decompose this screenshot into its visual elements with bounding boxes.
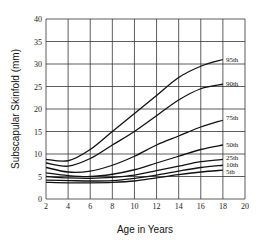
y-tick-label: 5 xyxy=(38,173,42,182)
x-tick-label: 2 xyxy=(44,202,48,211)
x-tick-label: 4 xyxy=(66,202,70,211)
x-tick-label: 18 xyxy=(219,202,227,211)
y-tick-label: 10 xyxy=(34,150,42,159)
y-axis-ticks: 0510152025303540 xyxy=(34,15,42,204)
y-tick-label: 35 xyxy=(34,38,42,47)
x-tick-label: 14 xyxy=(175,202,183,211)
y-tick-label: 20 xyxy=(34,105,42,114)
label-75th: 75th xyxy=(226,114,239,122)
percentile-labels: 95th90th75th50th25th10th5th xyxy=(226,56,239,177)
x-tick-label: 16 xyxy=(197,202,205,211)
y-tick-label: 15 xyxy=(34,128,42,137)
y-axis-title: Subscapular Skinfold (mm) xyxy=(10,49,21,169)
x-axis-title: Age in Years xyxy=(117,224,173,235)
x-tick-label: 10 xyxy=(130,202,138,211)
x-tick-label: 8 xyxy=(110,202,114,211)
y-tick-label: 0 xyxy=(38,195,42,204)
x-tick-label: 12 xyxy=(153,202,161,211)
label-90th: 90th xyxy=(226,80,239,88)
label-5th: 5th xyxy=(226,168,235,176)
label-95th: 95th xyxy=(226,56,239,64)
y-tick-label: 30 xyxy=(34,60,42,69)
label-50th: 50th xyxy=(226,141,239,149)
skinfold-chart: 0510152025303540 2468101214161820 95th90… xyxy=(0,0,262,240)
x-tick-label: 6 xyxy=(88,202,92,211)
y-tick-label: 40 xyxy=(34,15,42,24)
x-axis-ticks: 2468101214161820 xyxy=(44,202,249,211)
y-tick-label: 25 xyxy=(34,83,42,92)
x-tick-label: 20 xyxy=(241,202,249,211)
